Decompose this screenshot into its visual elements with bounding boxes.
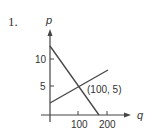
intersection-label: (100, 5)	[87, 84, 121, 95]
y-axis-arrow-icon	[48, 29, 53, 36]
demand-line	[50, 46, 99, 115]
y-tick-label-5: 5	[40, 81, 46, 92]
chart: p q 10 5 100 200 (100, 5)	[0, 0, 152, 134]
x-axis-label: q	[137, 109, 144, 121]
x-axis-arrow-icon	[124, 113, 131, 118]
y-tick-label-10: 10	[35, 54, 47, 65]
x-tick-label-100: 100	[71, 119, 88, 130]
y-axis-label: p	[45, 14, 52, 26]
x-tick-label-200: 200	[99, 119, 116, 130]
